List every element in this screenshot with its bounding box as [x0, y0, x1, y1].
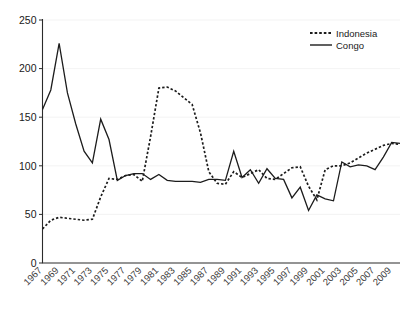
legend: IndonesiaCongo [310, 28, 378, 51]
y-tick-label: 250 [19, 14, 37, 26]
x-axis-tick-labels: 1967196919711973197519771979198119831985… [21, 265, 393, 288]
y-tick-label: 200 [19, 62, 37, 74]
legend-label-indonesia: Indonesia [336, 28, 378, 39]
y-tick-label: 150 [19, 111, 37, 123]
series-line-indonesia [43, 87, 401, 229]
line-chart: 250200150100500 196719691971197319751977… [0, 0, 417, 309]
y-tick-label: 100 [19, 160, 37, 172]
x-tick-label: 2009 [370, 265, 393, 288]
legend-label-congo: Congo [336, 40, 364, 51]
y-axis-tick-labels: 250200150100500 [19, 14, 43, 269]
chart-canvas: 250200150100500 196719691971197319751977… [0, 0, 417, 309]
y-tick-label: 50 [25, 208, 37, 220]
